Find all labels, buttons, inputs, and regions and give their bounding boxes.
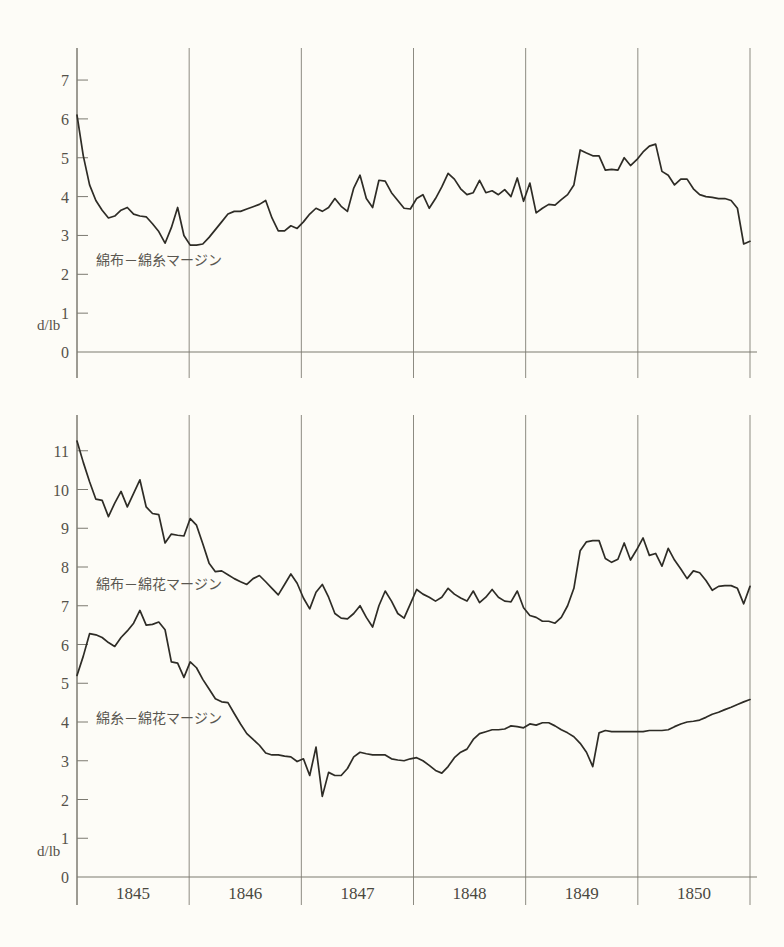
y-axis-tick-label: 4 xyxy=(61,189,69,206)
y-axis-tick-label: 1 xyxy=(61,305,69,322)
y-axis-tick-label: 3 xyxy=(61,753,69,770)
y-axis-tick-label: 11 xyxy=(54,443,69,460)
y-axis-tick-label: 1 xyxy=(61,830,69,847)
x-axis-year-label: 1850 xyxy=(677,884,711,903)
top-panel-series-label: 綿布－綿糸マージン xyxy=(96,252,222,268)
y-axis-tick-label: 0 xyxy=(61,869,69,886)
y-axis-tick-label: 5 xyxy=(61,150,69,167)
x-axis-year-label: 1848 xyxy=(453,884,487,903)
figure-background xyxy=(0,0,784,947)
x-axis-year-label: 1847 xyxy=(340,884,375,903)
y-axis-tick-label: 4 xyxy=(61,714,69,731)
y-axis-tick-label: 6 xyxy=(61,111,69,128)
y-axis-tick-label: 8 xyxy=(61,559,69,576)
y-axis-tick-label: 10 xyxy=(53,482,69,499)
x-axis-year-label: 1846 xyxy=(228,884,262,903)
y-axis-tick-label: 2 xyxy=(61,266,69,283)
x-axis-year-label: 1849 xyxy=(565,884,599,903)
margins-chart-figure: 01234567 d/lb 綿布－綿糸マージン 01234567891011 d… xyxy=(0,0,784,947)
y-axis-tick-label: 0 xyxy=(61,344,69,361)
y-axis-tick-label: 6 xyxy=(61,637,69,654)
y-axis-tick-label: 5 xyxy=(61,675,69,692)
x-axis-year-label: 1845 xyxy=(116,884,150,903)
y-axis-tick-label: 2 xyxy=(61,792,69,809)
bottom-panel-series-label-lower: 綿糸－綿花マージン xyxy=(96,710,222,726)
y-axis-tick-label: 7 xyxy=(61,72,69,89)
top-panel-unit-label: d/lb xyxy=(37,317,60,333)
y-axis-tick-label: 3 xyxy=(61,227,69,244)
y-axis-tick-label: 9 xyxy=(61,520,69,537)
y-axis-tick-label: 7 xyxy=(61,598,69,615)
bottom-panel-unit-label: d/lb xyxy=(37,843,60,859)
bottom-panel-series-label-upper: 綿布－綿花マージン xyxy=(96,576,222,592)
